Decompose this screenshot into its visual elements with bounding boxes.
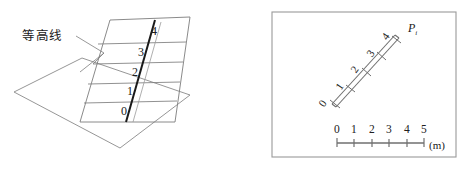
scale-unit-label: (m) bbox=[429, 140, 445, 151]
scale-label-1: 1 bbox=[351, 124, 357, 136]
scale-label-2: 2 bbox=[369, 124, 375, 136]
map-tick-2 bbox=[362, 68, 371, 76]
contour-value-2: 2 bbox=[132, 66, 138, 78]
point-p-label: Pi bbox=[408, 22, 417, 37]
point-p-subscript: i bbox=[415, 29, 417, 37]
contour-value-4: 4 bbox=[151, 25, 157, 37]
right-panel-group bbox=[272, 12, 456, 157]
contour-value-1: 1 bbox=[127, 85, 133, 97]
contour-callout-label: 等高线 bbox=[22, 30, 63, 43]
right-panel-border bbox=[272, 12, 456, 157]
map-tick-4 bbox=[392, 36, 401, 43]
contour-line-4 bbox=[98, 42, 186, 44]
figure-root: 。。。。。。。。。。。。。。。。。。。。。。 bbox=[0, 0, 465, 169]
scale-label-3: 3 bbox=[386, 124, 392, 136]
scale-label-4: 4 bbox=[404, 124, 410, 136]
scale-label-0: 0 bbox=[334, 124, 340, 136]
map-slope-cap-end bbox=[395, 35, 399, 38]
contour-value-0: 0 bbox=[121, 105, 127, 117]
callout-leader-line-branch bbox=[80, 53, 104, 72]
contour-value-3: 3 bbox=[138, 46, 144, 58]
scale-label-5: 5 bbox=[421, 124, 427, 136]
callout-leader-line bbox=[76, 36, 104, 64]
contour-line-2 bbox=[88, 82, 180, 84]
contour-line-3 bbox=[93, 62, 183, 64]
figure-svg bbox=[0, 0, 465, 169]
